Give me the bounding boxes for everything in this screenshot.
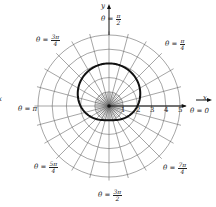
angle-label-3pi-over-4: θ = 3π4 (36, 34, 60, 47)
angle-label-5pi-over-4: θ = 5π4 (34, 161, 58, 174)
angle-label-pi-over-4: θ = π4 (165, 38, 185, 51)
angle-label-0: θ = 0 (190, 108, 209, 115)
angle-prefix: θ = (163, 164, 178, 172)
r-tick-1: 1 (121, 107, 125, 114)
fraction: π4 (180, 38, 186, 51)
angle-prefix: θ = (36, 36, 51, 44)
angle-label-7pi-over-4: θ = 7π4 (163, 162, 187, 175)
angle-label-pi: θ = π (18, 106, 37, 113)
y-axis-arrow-icon (107, 4, 111, 9)
polar-graph (0, 0, 216, 207)
angle-prefix: θ = (165, 40, 180, 48)
angle-label-pi-over-2: θ = π2 (101, 13, 121, 26)
fraction: 3π2 (113, 189, 123, 202)
fraction: 3π4 (51, 34, 61, 47)
fraction: 5π4 (49, 161, 59, 174)
fraction: π2 (116, 13, 122, 26)
denominator: 4 (178, 169, 188, 175)
y-axis-label: y (101, 3, 105, 10)
pole-point (107, 104, 111, 108)
angle-prefix: θ = (101, 15, 116, 23)
denominator: 2 (113, 196, 123, 202)
angle-prefix: θ = (34, 163, 49, 171)
r-tick-4: 4 (164, 107, 168, 114)
r-tick-5: 5 (178, 107, 182, 114)
x-axis-label-left-clipped: x (0, 96, 2, 103)
denominator: 2 (116, 20, 122, 26)
fraction: 7π4 (178, 162, 188, 175)
r-tick-3: 3 (150, 107, 154, 114)
r-tick-2: 2 (136, 107, 140, 114)
angle-label-3pi-over-2: θ = 3π2 (98, 189, 122, 202)
angle-prefix: θ = (98, 191, 113, 199)
x-axis-arrow-icon (207, 98, 212, 102)
denominator: 4 (180, 45, 186, 51)
denominator: 4 (51, 41, 61, 47)
x-axis-label: x (203, 95, 207, 102)
denominator: 4 (49, 168, 59, 174)
